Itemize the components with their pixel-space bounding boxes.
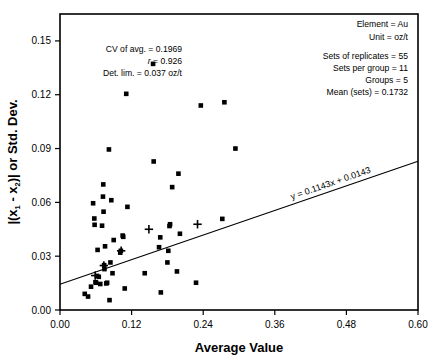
data-point-square xyxy=(92,216,97,221)
data-point-square xyxy=(158,235,163,240)
plot-canvas: 0.000.030.060.090.120.15 0.000.120.240.3… xyxy=(0,0,435,362)
data-point-square xyxy=(122,286,127,291)
data-point-square xyxy=(178,231,183,236)
annotation-r-value: = 0.926 xyxy=(151,56,183,66)
data-point-square xyxy=(222,100,227,105)
data-point-square xyxy=(98,282,103,287)
y-tick-label: 0.12 xyxy=(32,89,52,100)
data-point-square xyxy=(142,271,147,276)
data-point-square xyxy=(125,205,130,210)
data-point-square xyxy=(124,92,129,97)
data-point-square xyxy=(151,159,156,164)
x-tick-label: 0.48 xyxy=(337,319,357,330)
data-point-square xyxy=(108,260,113,265)
data-point-square xyxy=(110,271,115,276)
data-point-square xyxy=(101,194,106,199)
data-point-square xyxy=(109,198,114,203)
annotation-sets-of-replicates: Sets of replicates = 55 xyxy=(323,51,408,61)
data-point-square xyxy=(175,269,180,274)
x-tick-label: 0.24 xyxy=(193,319,213,330)
annotation-cv-of-avg: CV of avg. = 0.1969 xyxy=(106,44,182,54)
data-point-square xyxy=(111,238,116,243)
annotation-unit: Unit = oz/t xyxy=(369,32,409,42)
y-title-mid: - x xyxy=(5,186,20,206)
annotation-detection-limit: Det. lim. = 0.037 oz/t xyxy=(103,68,183,78)
annotation-element: Element = Au xyxy=(357,19,409,29)
data-point-square xyxy=(101,209,106,214)
x-tick-label: 0.00 xyxy=(50,319,70,330)
data-point-square xyxy=(86,294,91,299)
data-point-square xyxy=(107,298,112,303)
data-point-square xyxy=(95,248,100,253)
y-tick-label: 0.00 xyxy=(32,305,52,316)
data-point-square xyxy=(165,260,170,265)
data-point-square xyxy=(220,217,225,222)
y-axis-title: |(x1 - x2)| or Std. Dev. xyxy=(5,99,22,224)
data-point-square xyxy=(168,222,173,227)
data-point-square xyxy=(233,146,238,151)
data-point-square xyxy=(107,147,112,152)
scatter-chart: 0.000.030.060.090.120.15 0.000.120.240.3… xyxy=(0,0,435,362)
annotation-mean-sets: Mean (sets) = 0.1732 xyxy=(327,87,409,97)
y-tick-label: 0.09 xyxy=(32,143,52,154)
data-point-square xyxy=(89,284,94,289)
annotation-sets-per-group: Sets per group = 11 xyxy=(333,63,408,73)
data-point-square xyxy=(103,244,108,249)
y-tick-label: 0.15 xyxy=(32,35,52,46)
data-point-square xyxy=(105,280,110,285)
data-point-square xyxy=(176,171,181,176)
data-point-square xyxy=(121,235,126,240)
x-axis-title: Average Value xyxy=(195,340,283,355)
x-tick-label: 0.36 xyxy=(265,319,285,330)
y-title-prefix: |(x xyxy=(5,209,20,225)
data-point-square xyxy=(92,222,97,227)
data-point-square xyxy=(94,280,99,285)
y-tick-label: 0.06 xyxy=(32,197,52,208)
x-tick-label: 0.12 xyxy=(122,319,142,330)
data-point-square xyxy=(91,201,96,206)
data-point-square xyxy=(166,249,171,254)
data-point-square xyxy=(194,280,199,285)
annotation-groups: Groups = 5 xyxy=(365,75,408,85)
x-tick-label: 0.60 xyxy=(408,319,428,330)
y-tick-label: 0.03 xyxy=(32,251,52,262)
data-point-square xyxy=(170,185,175,190)
data-point-square xyxy=(157,245,162,250)
data-point-square xyxy=(100,223,105,228)
data-point-square xyxy=(101,182,106,187)
annotation-correlation: r = 0.926 xyxy=(148,56,182,66)
data-point-square xyxy=(159,290,164,295)
y-title-suffix: )| or Std. Dev. xyxy=(5,99,20,182)
data-point-square xyxy=(199,103,204,108)
